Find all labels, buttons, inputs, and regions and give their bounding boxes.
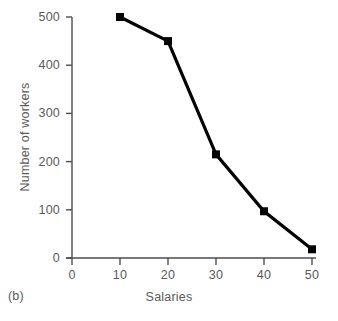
x-tick-label-50: 50 (296, 268, 328, 282)
data-point-markers (116, 13, 316, 253)
y-tick-label-0: 0 (18, 251, 60, 265)
x-tick-label-0: 0 (56, 268, 88, 282)
panel-caption: (b) (8, 289, 24, 303)
x-tick-label-30: 30 (200, 268, 232, 282)
x-tick-label-10: 10 (104, 268, 136, 282)
x-axis-title: Salaries (0, 290, 338, 304)
data-series-line (120, 17, 312, 249)
data-point-marker (260, 207, 268, 215)
data-point-marker (308, 245, 316, 253)
y-axis-title: Number of workers (18, 67, 32, 207)
x-tick-label-20: 20 (152, 268, 184, 282)
figure-panel: 500 400 300 200 100 0 0 10 20 30 40 50 S… (0, 0, 338, 321)
x-tick-label-40: 40 (248, 268, 280, 282)
data-point-marker (212, 150, 220, 158)
data-point-marker (116, 13, 124, 21)
y-axis-ticks (66, 17, 72, 258)
x-axis-ticks (72, 258, 312, 265)
y-tick-label-500: 500 (18, 10, 60, 24)
data-point-marker (164, 37, 172, 45)
